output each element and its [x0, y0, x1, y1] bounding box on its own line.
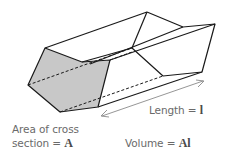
area-label-line1: Area of cross: [12, 123, 79, 136]
length-label-text: Length =: [149, 104, 200, 116]
length-symbol: l: [200, 103, 203, 117]
area-label-line2: section = A: [12, 137, 73, 150]
top-edge: [45, 12, 147, 48]
bottom-right-edge: [98, 72, 202, 107]
volume-label-text: Volume =: [125, 137, 179, 149]
length-label: Length = l: [149, 104, 203, 117]
volume-label: Volume = Al: [125, 137, 190, 150]
area-symbol: A: [64, 136, 73, 150]
back-face-edges: [132, 12, 215, 76]
area-label-text: section =: [12, 137, 64, 149]
volume-symbol: Al: [179, 136, 191, 150]
